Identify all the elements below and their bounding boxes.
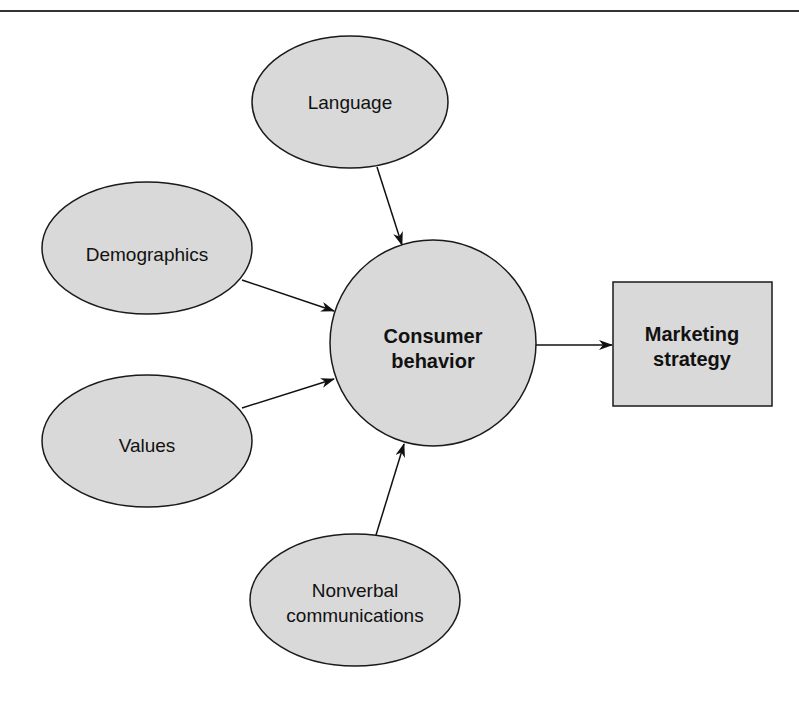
diagram-canvas: Language Demographics Values Nonverbal c… <box>0 0 799 704</box>
node-language-label: Language <box>308 92 393 113</box>
edge-nonverbal-to-consumer <box>376 444 404 535</box>
edge-demographics-to-consumer <box>242 280 334 311</box>
node-marketing-label-line2: strategy <box>653 348 732 370</box>
node-nonverbal-communications: Nonverbal communications <box>250 534 460 666</box>
node-demographics: Demographics <box>42 182 252 314</box>
node-language: Language <box>252 36 448 168</box>
node-consumer-label-line2: behavior <box>391 350 475 372</box>
node-nonverbal-label-line2: communications <box>286 605 423 626</box>
node-marketing-label-line1: Marketing <box>645 323 739 345</box>
node-nonverbal-label-line1: Nonverbal <box>312 580 399 601</box>
node-values-label: Values <box>119 435 176 456</box>
edge-values-to-consumer <box>242 379 334 408</box>
node-demographics-label: Demographics <box>86 244 209 265</box>
node-consumer-behavior: Consumer behavior <box>330 240 536 446</box>
node-values: Values <box>42 375 252 507</box>
edge-language-to-consumer <box>377 167 402 245</box>
node-consumer-label-line1: Consumer <box>384 325 483 347</box>
node-marketing-strategy: Marketing strategy <box>613 282 772 406</box>
